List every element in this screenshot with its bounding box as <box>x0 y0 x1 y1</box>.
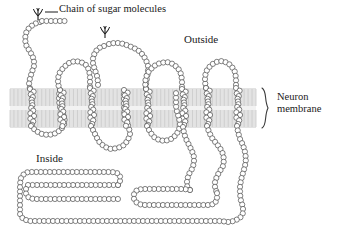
c-terminal-descending-chain-far-right <box>226 123 249 224</box>
label-neuron-membrane-line2: membrane <box>277 103 321 115</box>
label-neuron-membrane-line1: Neuron <box>277 91 321 103</box>
amino-acid-bead <box>173 91 178 96</box>
amino-acid-bead <box>60 124 65 129</box>
c-terminal-switchback-left <box>23 182 120 201</box>
glycan-tip-right <box>108 27 109 30</box>
membrane-protein-diagram <box>0 0 347 234</box>
curly-brace-icon <box>262 88 268 128</box>
c-terminal-switchback-upper <box>131 186 219 207</box>
membrane-midline <box>10 106 256 110</box>
amino-acid-bead <box>214 191 219 196</box>
glycan-tip-left <box>100 27 101 30</box>
amino-acid-bead <box>123 123 128 128</box>
intracellular-descending-chain-right <box>204 123 226 193</box>
label-neuron-membrane: Neuron membrane <box>277 91 321 115</box>
amino-acid-bead <box>115 196 120 201</box>
glycan-tip-mid-right <box>38 8 39 11</box>
amino-acid-bead <box>221 219 226 224</box>
n-terminal-extracellular-chain <box>23 19 43 90</box>
label-chain-of-sugar-molecules: Chain of sugar molecules <box>59 3 166 15</box>
amino-acid-bead <box>95 82 100 87</box>
glycan-tip-left <box>33 9 34 12</box>
glycan-tip-right <box>41 9 42 12</box>
extracellular-loop-2-with-glycan <box>90 43 106 87</box>
label-outside: Outside <box>184 33 218 45</box>
diagram-canvas: Chain of sugar molecules Outside Inside … <box>0 0 347 234</box>
neuron-membrane-band <box>10 88 256 128</box>
amino-acid-bead <box>62 18 67 23</box>
label-inside: Inside <box>36 152 63 164</box>
intracellular-descending-chain-middle <box>180 124 196 192</box>
glycan-loop-two <box>100 26 109 38</box>
extracellular-loop-1 <box>55 59 92 93</box>
membrane-brace <box>262 88 268 128</box>
glycan-tip-mid-right <box>105 26 106 29</box>
sugar-chain-beads-top <box>39 18 67 23</box>
